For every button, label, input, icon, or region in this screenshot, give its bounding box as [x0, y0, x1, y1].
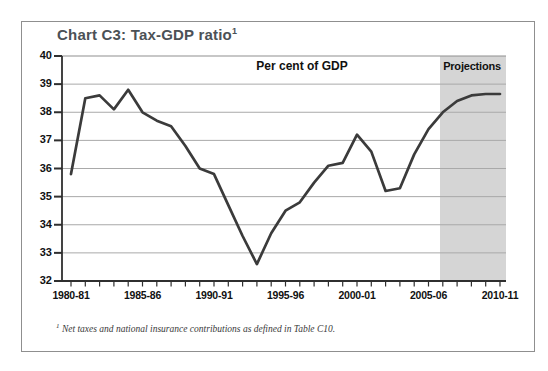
y-tick-label: 36 [22, 162, 52, 174]
y-tick-label: 38 [22, 105, 52, 117]
x-tick-label: 1985-86 [111, 289, 175, 301]
x-tick-label: 2010-11 [468, 289, 532, 301]
y-tick-label: 32 [22, 274, 52, 286]
title-footnote-marker: 1 [232, 26, 237, 36]
y-tick-label: 39 [22, 77, 52, 89]
y-tick-label: 37 [22, 133, 52, 145]
y-tick-label: 35 [22, 190, 52, 202]
chart-title-text: Chart C3: Tax-GDP ratio [57, 26, 232, 43]
chart-title: Chart C3: Tax-GDP ratio1 [57, 26, 237, 43]
footnote-text: Net taxes and national insurance contrib… [62, 324, 335, 334]
x-tick-label: 1980-81 [39, 289, 103, 301]
y-tick-label: 33 [22, 246, 52, 258]
x-tick-label: 2000-01 [325, 289, 389, 301]
footnote: 1 Net taxes and national insurance contr… [56, 322, 335, 334]
x-tick-label: 1990-91 [182, 289, 246, 301]
x-tick-label: 2005-06 [397, 289, 461, 301]
tax-gdp-ratio-line [71, 90, 500, 264]
projections-label: Projections [439, 60, 505, 72]
x-tick-label: 1995-96 [254, 289, 318, 301]
unit-label: Per cent of GDP [222, 59, 382, 73]
y-tick-label: 34 [22, 218, 52, 230]
footnote-marker: 1 [56, 322, 60, 330]
y-tick-label: 40 [22, 49, 52, 61]
tax-gdp-line-chart [0, 0, 548, 371]
chart-figure: Chart C3: Tax-GDP ratio1 Per cent of GDP… [0, 0, 548, 371]
